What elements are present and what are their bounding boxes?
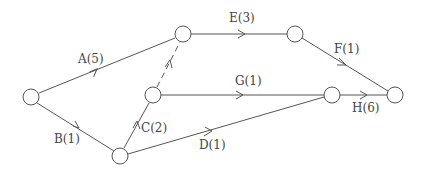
- arrow-a-icon: [90, 69, 100, 78]
- node-7: [387, 87, 403, 103]
- arrow-f-icon: [337, 58, 346, 65]
- node-5: [287, 26, 303, 42]
- label-e: E(3): [229, 12, 255, 24]
- node-3: [145, 87, 161, 103]
- node-2: [175, 26, 191, 42]
- diagram-graphics: [0, 0, 432, 180]
- label-b: B(1): [54, 133, 80, 145]
- label-a: A(5): [78, 53, 104, 65]
- edge-dummy: [157, 42, 180, 87]
- label-d: D(1): [199, 139, 226, 151]
- label-h: H(6): [352, 102, 379, 114]
- label-g: G(1): [235, 75, 262, 87]
- node-4: [112, 148, 128, 164]
- node-1: [23, 89, 39, 105]
- edge-a: [39, 38, 175, 93]
- label-f: F(1): [334, 43, 359, 55]
- label-c: C(2): [141, 122, 167, 134]
- node-6: [324, 87, 340, 103]
- network-diagram: A(5) B(1) C(2) D(1) E(3) F(1) G(1) H(6): [0, 0, 432, 180]
- arrow-b-icon: [73, 121, 79, 128]
